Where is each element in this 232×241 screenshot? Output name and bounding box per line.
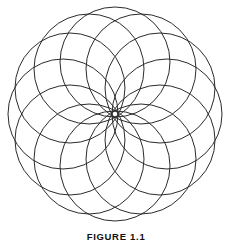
- figure-page: FIGURE 1.1: [0, 0, 232, 241]
- rosette-figure: [0, 0, 232, 241]
- figure-caption: FIGURE 1.1: [0, 231, 232, 241]
